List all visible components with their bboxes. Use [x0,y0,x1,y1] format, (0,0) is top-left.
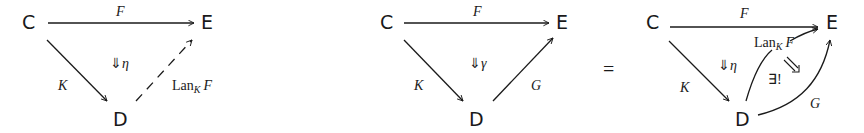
object-D: D [735,108,750,130]
arrow-K [47,40,107,101]
label-F: F [739,6,749,21]
double-diagonal-arrow-icon [784,57,799,72]
object-E: E [826,11,838,33]
label-F: F [115,4,125,19]
two-cell-gamma: ⇓γ [469,56,487,71]
object-C: C [380,11,393,33]
object-D: D [113,108,128,130]
label-G: G [810,96,820,111]
label-F: F [472,4,482,19]
double-down-arrow-icon: ⇓ [718,58,730,73]
object-E: E [556,11,568,33]
double-down-arrow-icon: ⇓ [469,56,481,71]
object-C: C [22,11,35,33]
label-K: K [413,78,424,93]
label-lan-K-F: LanKF [172,78,212,95]
object-E: E [201,11,213,33]
kan-extension-diagrams: C E D F K LanKF ⇓η C E D F K G ⇓γ = [0,0,864,133]
equals-sign: = [603,58,614,80]
label-K: K [679,80,690,95]
label-lan-K-F: LanKF [754,35,794,52]
object-D: D [469,108,484,130]
diagram-right: C E D F K LanKF G ⇓η ∃! [646,6,838,130]
arrow-K [404,40,463,101]
label-G: G [531,78,541,93]
object-C: C [646,11,659,33]
two-cell-eta: ⇓η [718,58,737,73]
label-K: K [57,78,68,93]
diagram-middle: C E D F K G ⇓γ [380,4,568,130]
two-cell-eta: ⇓η [110,56,129,71]
diagram-left: C E D F K LanKF ⇓η [22,4,213,130]
arrow-G [493,38,553,101]
double-down-arrow-icon: ⇓ [110,56,122,71]
label-unique-exists: ∃! [768,72,782,87]
